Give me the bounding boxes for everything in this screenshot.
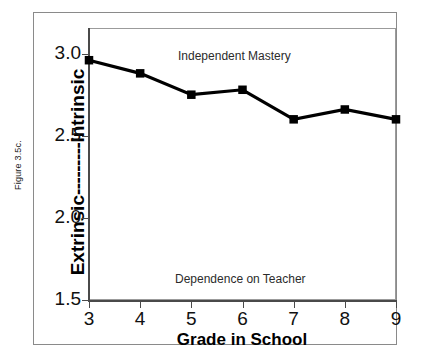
- x-tick-5: [191, 301, 192, 308]
- x-tick-label-5: 5: [176, 308, 206, 330]
- x-tick-label-9: 9: [381, 308, 411, 330]
- x-tick-label-4: 4: [125, 308, 155, 330]
- y-axis-label-connector: ---------: [67, 143, 89, 195]
- x-tick-6: [243, 301, 244, 308]
- y-axis-line: [88, 28, 90, 301]
- y-axis-label: Extrinsic---------Intrinsic: [66, 27, 90, 317]
- y-tick-1.5: [82, 300, 89, 301]
- y-tick-label-1.5: 1.5: [39, 288, 81, 310]
- x-tick-8: [345, 301, 346, 308]
- x-tick-label-6: 6: [228, 308, 258, 330]
- y-tick-2.5: [82, 136, 89, 137]
- x-tick-9: [396, 301, 397, 308]
- x-tick-3: [89, 301, 90, 308]
- annotation-independent-mastery: Independent Mastery: [178, 49, 291, 63]
- y-tick-label-3.0: 3.0: [39, 42, 81, 64]
- x-tick-7: [294, 301, 295, 308]
- y-tick-2.0: [82, 218, 89, 219]
- x-tick-label-8: 8: [330, 308, 360, 330]
- y-tick-3.0: [82, 54, 89, 55]
- x-tick-label-3: 3: [74, 308, 104, 330]
- annotation-dependence-on-teacher: Dependence on Teacher: [175, 272, 306, 286]
- x-tick-4: [140, 301, 141, 308]
- y-tick-label-2.0: 2.0: [39, 206, 81, 228]
- figure-caption: Figure 3.5c.: [13, 125, 23, 205]
- plot-area: [88, 28, 396, 300]
- x-axis-title: Grade in School: [88, 330, 396, 350]
- y-tick-label-2.5: 2.5: [39, 124, 81, 146]
- x-tick-label-7: 7: [279, 308, 309, 330]
- figure-root: Figure 3.5c. Extrinsic---------Intrinsic…: [0, 0, 432, 360]
